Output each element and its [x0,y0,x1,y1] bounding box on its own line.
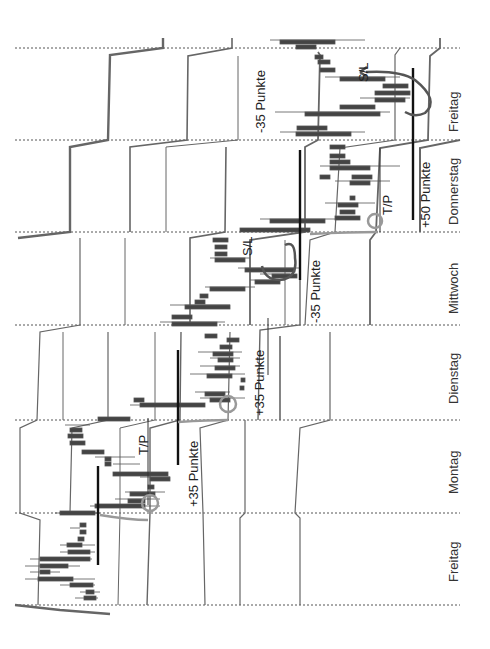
candles [25,40,410,600]
day-label-montag: Montag [446,451,461,494]
day-label-freitag-2: Freitag [446,92,461,132]
trade-lines [98,68,413,565]
annotation-friday-sl: S/L [356,62,371,82]
day-label-mittwoch: Mittwoch [446,263,461,314]
pivot-lines [15,38,460,614]
annotation-friday-points: -35 Punkte [253,70,268,133]
day-label-donnerstag: Donnerstag [446,158,461,225]
thin-bracket-lines [148,148,380,505]
annotation-wednesday-points: -35 Punkte [308,260,323,323]
annotation-thursday-points: +50 Punkte [418,162,433,228]
candlestick-chart: Freitag Montag Dienstag Mittwoch Donners… [0,0,490,649]
annotation-tuesday-points: +35 Punkte [252,350,267,416]
day-labels: Freitag Montag Dienstag Mittwoch Donners… [446,92,461,582]
annotation-wednesday-sl: S/L [240,236,255,256]
annotation-thursday-tp: T/P [380,195,395,215]
annotation-monday-tp: T/P [136,435,151,455]
day-label-dienstag: Dienstag [446,353,461,404]
day-label-freitag-1: Freitag [446,542,461,582]
annotation-monday-points: +35 Punkte [186,441,201,507]
